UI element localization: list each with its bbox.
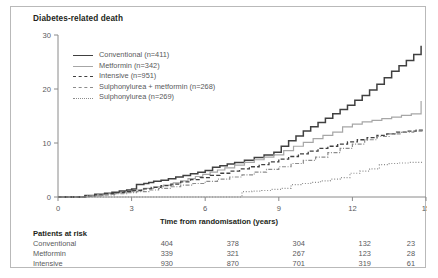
svg-text:30: 30 (43, 31, 51, 40)
legend-line-sample-icon (73, 72, 93, 80)
legend-item-label: Metformin (n=342) (99, 61, 160, 70)
legend-item-label: Conventional (n=411) (99, 50, 169, 59)
table-row: Intensive93087070131961 (33, 259, 415, 269)
figure-panel: Diabetes-related death 010203003691215 C… (10, 6, 426, 268)
table-row: Conventional40437830413223 (33, 239, 415, 249)
risk-cell: 930 (107, 259, 173, 269)
risk-cell: 378 (173, 239, 239, 249)
svg-text:15: 15 (422, 204, 427, 213)
x-axis-title: Time from randomisation (years) (11, 217, 427, 226)
legend-line-sample-icon (73, 83, 93, 91)
patients-at-risk-table: Conventional40437830413223Metformin33932… (33, 239, 415, 269)
risk-cell: 321 (173, 249, 239, 259)
legend-line-sample-icon (73, 94, 93, 102)
risk-cell: 319 (305, 259, 371, 269)
legend-item-label: Sulphonylurea (n=269) (99, 92, 174, 101)
risk-cell: 23 (371, 239, 415, 249)
legend-item-0: Conventional (n=411) (73, 50, 215, 61)
legend-item-3: Sulphonylurea + metformin (n=268) (73, 82, 215, 93)
svg-text:0: 0 (47, 193, 51, 202)
legend-line-sample-icon (73, 51, 93, 59)
risk-cell: 132 (305, 239, 371, 249)
legend-item-4: Sulphonylurea (n=269) (73, 92, 215, 103)
risk-cell: 339 (107, 249, 173, 259)
svg-text:6: 6 (203, 204, 207, 213)
risk-cell: 123 (305, 249, 371, 259)
risk-cell: 870 (173, 259, 239, 269)
risk-cell: 267 (239, 249, 305, 259)
risk-cell: 404 (107, 239, 173, 249)
svg-text:20: 20 (43, 85, 51, 94)
svg-text:10: 10 (43, 139, 51, 148)
patients-at-risk-heading: Patients at risk (33, 229, 87, 238)
legend-item-label: Intensive (n=951) (99, 71, 156, 80)
legend-item-label: Sulphonylurea + metformin (n=268) (99, 82, 215, 91)
svg-text:3: 3 (129, 204, 133, 213)
risk-cell: 61 (371, 259, 415, 269)
curve-1 (58, 101, 421, 197)
legend-item-2: Intensive (n=951) (73, 71, 215, 82)
legend-line-sample-icon (73, 62, 93, 70)
risk-row-label: Metformin (33, 249, 107, 259)
svg-text:9: 9 (277, 204, 281, 213)
risk-cell: 304 (239, 239, 305, 249)
risk-row-label: Intensive (33, 259, 107, 269)
svg-text:0: 0 (56, 204, 60, 213)
svg-text:12: 12 (348, 204, 356, 213)
risk-cell: 28 (371, 249, 415, 259)
risk-cell: 701 (239, 259, 305, 269)
chart-legend: Conventional (n=411)Metformin (n=342)Int… (73, 50, 215, 103)
table-row: Metformin33932126712328 (33, 249, 415, 259)
legend-item-1: Metformin (n=342) (73, 61, 215, 72)
risk-row-label: Conventional (33, 239, 107, 249)
curve-3 (58, 131, 424, 197)
